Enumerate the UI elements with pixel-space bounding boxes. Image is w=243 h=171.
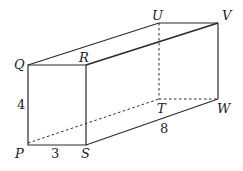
hidden-edges: [28, 23, 218, 143]
vertex-label-t: T: [157, 101, 167, 116]
prism-diagram: Q R P S U V T W 4 3 8: [0, 0, 243, 171]
edge-rv: [86, 23, 218, 65]
edge-pt-hidden: [28, 99, 159, 143]
vertex-label-u: U: [152, 8, 164, 23]
vertex-label-r: R: [78, 50, 89, 65]
edge-sw: [86, 99, 218, 145]
edge-qu: [28, 23, 159, 65]
vertex-label-w: W: [217, 101, 232, 116]
vertex-label-p: P: [14, 146, 24, 161]
vertex-label-v: V: [222, 8, 233, 23]
visible-edges: [28, 23, 218, 145]
vertex-label-q: Q: [14, 57, 25, 72]
dimension-label-width: 3: [51, 146, 59, 161]
dimension-label-height: 4: [17, 97, 25, 112]
dimension-label-length: 8: [160, 121, 168, 136]
vertex-label-s: S: [81, 146, 90, 161]
